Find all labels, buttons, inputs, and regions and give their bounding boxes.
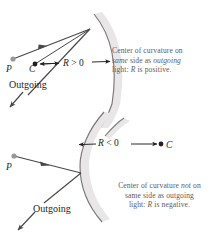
outgoing-ray-arrow-top xyxy=(10,92,23,107)
incoming-ray-arrowhead-top xyxy=(38,44,48,49)
caption-bot-line3b: is negative. xyxy=(152,200,190,209)
caption-positive: Center of curvature on same side as outg… xyxy=(112,46,218,75)
radius-label-bottom: R < 0 xyxy=(98,138,119,148)
caption-top-em-outgoing: outgoing xyxy=(153,56,181,65)
outgoing-label-top: Outgoing xyxy=(9,79,47,90)
caption-top-line3a: light: xyxy=(112,65,131,74)
caption-top-line2b: side as xyxy=(128,56,153,65)
incoming-ray-arrowhead-bottom xyxy=(40,162,50,167)
outgoing-ray-arrow-bottom xyxy=(18,212,35,230)
caption-bot-line1b: on xyxy=(191,181,201,190)
caption-top-line3b: is positive. xyxy=(135,65,171,74)
point-c-bottom xyxy=(159,142,164,147)
caption-bot-line2: same side as outgoing xyxy=(125,191,194,200)
point-label-c-bottom: C xyxy=(166,140,172,150)
outgoing-label-bottom: Outgoing xyxy=(33,203,71,214)
radius-relation-bottom: < 0 xyxy=(104,138,119,148)
caption-top-line1: Center of curvature on xyxy=(112,46,183,55)
radius-dimension-line-top-right xyxy=(92,61,110,62)
caption-negative: Center of curvature not on same side as … xyxy=(101,181,218,210)
radius-label-top: R > 0 xyxy=(63,58,84,68)
incoming-ray-top xyxy=(13,29,90,59)
caption-bot-line3a: light: xyxy=(129,200,148,209)
point-p-top xyxy=(10,56,15,61)
point-label-p-top: P xyxy=(6,64,12,74)
point-label-p-bottom: P xyxy=(6,162,12,172)
radius-dimension-line-bottom-left xyxy=(79,144,96,145)
caption-top-em-same: same xyxy=(112,56,128,65)
radius-dimension-line-top-left xyxy=(40,63,55,64)
caption-bot-line1a: Center of curvature xyxy=(118,181,181,190)
outgoing-ray-bottom xyxy=(44,173,81,203)
radius-relation-top: > 0 xyxy=(69,58,84,68)
point-p-bottom xyxy=(11,153,16,158)
caption-bot-em-not: not xyxy=(181,181,191,190)
point-label-c-top: C xyxy=(29,64,35,74)
